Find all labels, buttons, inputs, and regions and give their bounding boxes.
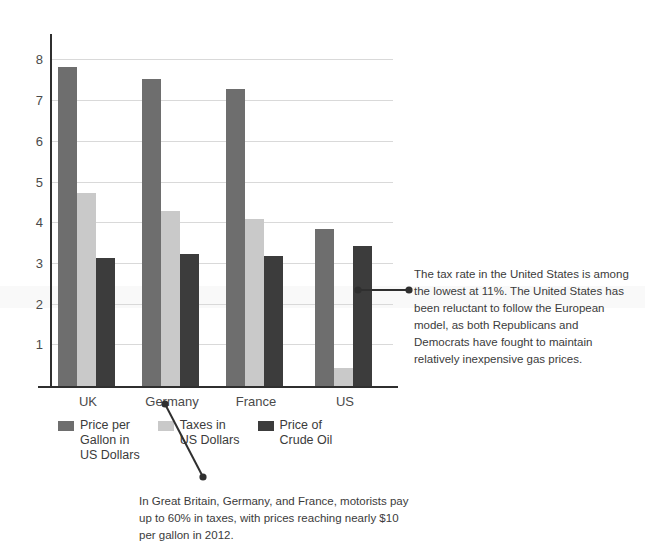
bar-uk-series-2 xyxy=(96,258,115,386)
bar-france-series-1 xyxy=(245,219,264,386)
category-label-uk: UK xyxy=(48,394,128,409)
bar-france-series-0 xyxy=(226,89,245,386)
y-axis-tick-label: 5 xyxy=(36,175,43,188)
x-axis-line xyxy=(38,386,398,388)
bar-france-series-2 xyxy=(264,256,283,386)
connector-dot-germany-end xyxy=(199,473,206,480)
y-axis-tick-label: 8 xyxy=(36,53,43,66)
bar-group-us xyxy=(315,40,375,386)
y-axis-tick-label: 7 xyxy=(36,94,43,107)
legend-item-crude-oil: Price of Crude Oil xyxy=(258,418,333,463)
legend-label-price-per-gallon: Price per Gallon in US Dollars xyxy=(80,418,140,463)
legend-swatch-icon-price-per-gallon xyxy=(58,421,74,431)
annotation-europe-tax: In Great Britain, Germany, and France, m… xyxy=(139,493,409,544)
bar-group-uk xyxy=(58,40,118,386)
legend-item-taxes: Taxes in US Dollars xyxy=(158,418,240,463)
y-axis-tick-label: 3 xyxy=(36,256,43,269)
bar-group-france xyxy=(226,40,286,386)
bar-germany-series-2 xyxy=(180,254,199,386)
legend-label-taxes: Taxes in US Dollars xyxy=(180,418,240,448)
y-axis-tick-label: 2 xyxy=(36,297,43,310)
bar-us-series-0 xyxy=(315,229,334,386)
bar-uk-series-0 xyxy=(58,67,77,386)
legend-label-crude-oil: Price of Crude Oil xyxy=(280,418,333,448)
bar-uk-series-1 xyxy=(77,193,96,386)
plot-area: 12345678 xyxy=(52,40,393,386)
bar-us-series-2 xyxy=(353,246,372,386)
y-axis-tick-label: 6 xyxy=(36,134,43,147)
bar-group-germany xyxy=(142,40,202,386)
legend-swatch-icon-crude-oil xyxy=(258,421,274,431)
bar-chart: 12345678 Price per Gallon in US Dollars … xyxy=(0,0,410,400)
category-label-germany: Germany xyxy=(132,394,212,409)
category-label-france: France xyxy=(216,394,296,409)
annotation-us-tax-rate: The tax rate in the United States is amo… xyxy=(414,266,632,368)
bar-us-series-1 xyxy=(334,368,353,386)
legend-swatch-icon-taxes xyxy=(158,421,174,431)
legend-item-price-per-gallon: Price per Gallon in US Dollars xyxy=(58,418,140,463)
y-axis-tick-label: 1 xyxy=(36,338,43,351)
chart-legend: Price per Gallon in US Dollars Taxes in … xyxy=(58,418,398,463)
y-axis-tick-label: 4 xyxy=(36,216,43,229)
category-label-us: US xyxy=(305,394,385,409)
bar-germany-series-1 xyxy=(161,211,180,386)
bar-germany-series-0 xyxy=(142,79,161,386)
